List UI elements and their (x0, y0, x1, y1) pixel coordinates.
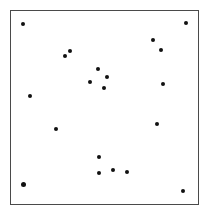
data-point-dot (111, 168, 115, 172)
data-point-dot (125, 170, 129, 174)
data-point-dot (96, 67, 100, 71)
data-point-dot (88, 80, 92, 84)
data-point-dot (97, 155, 101, 159)
data-point-dot (161, 82, 165, 86)
data-point-dot (21, 22, 25, 26)
data-point-dot (105, 75, 109, 79)
data-point-dot (97, 171, 101, 175)
diagram-frame (10, 10, 199, 205)
data-point-dot (21, 182, 26, 187)
data-point-dot (184, 21, 188, 25)
data-point-dot (63, 54, 67, 58)
data-point-dot (68, 49, 72, 53)
data-point-dot (155, 122, 159, 126)
data-point-dot (181, 189, 185, 193)
data-point-dot (159, 48, 163, 52)
data-point-dot (102, 86, 106, 90)
data-point-dot (54, 127, 58, 131)
data-point-dot (28, 94, 32, 98)
data-point-dot (151, 38, 155, 42)
